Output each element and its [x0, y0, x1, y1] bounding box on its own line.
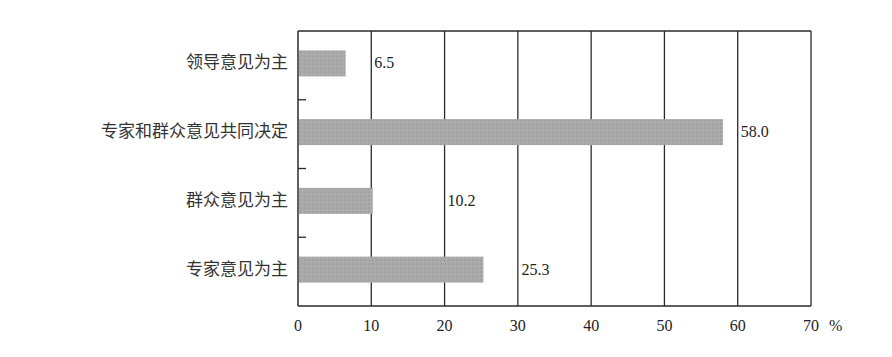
bar-3: [299, 257, 483, 283]
x-tick-label: 40: [583, 318, 599, 334]
x-tick-label: 50: [656, 318, 672, 334]
value-label: 10.2: [448, 193, 476, 209]
x-tick-label: 60: [730, 318, 746, 334]
horizontal-bar-chart: 领导意见为主6.5专家和群众意见共同决定58.0群众意见为主10.2专家意见为主…: [0, 0, 892, 357]
x-tick-label: 10: [363, 318, 379, 334]
category-label: 专家意见为主: [186, 261, 288, 278]
category-label: 领导意见为主: [186, 54, 288, 71]
category-label: 群众意见为主: [186, 192, 288, 209]
value-label: 58.0: [741, 124, 769, 140]
x-axis-unit: %: [829, 318, 842, 334]
x-tick-label: 70: [803, 318, 819, 334]
bar-2: [299, 188, 373, 214]
bar-0: [299, 50, 346, 76]
category-label: 专家和群众意见共同决定: [101, 123, 288, 140]
x-tick-label: 0: [294, 318, 302, 334]
x-tick-label: 20: [437, 318, 453, 334]
value-label: 6.5: [374, 55, 394, 71]
value-label: 25.3: [521, 262, 549, 278]
x-tick-label: 30: [510, 318, 526, 334]
plot-area: [0, 0, 892, 357]
bar-1: [299, 119, 723, 145]
